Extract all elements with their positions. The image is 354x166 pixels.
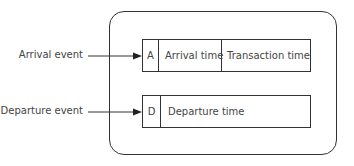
- departure-event-label: Departure event: [1, 105, 83, 116]
- arrival-event-label: Arrival event: [19, 49, 83, 60]
- arrival-arrow-icon: [88, 51, 142, 61]
- transaction-time-cell: Transaction time: [222, 40, 310, 71]
- arrival-time-cell: Arrival time: [159, 40, 222, 71]
- departure-code-cell: D: [143, 96, 161, 127]
- departure-arrow-icon: [88, 107, 142, 117]
- event-list-container: [109, 11, 337, 155]
- arrival-code-cell: A: [143, 40, 159, 71]
- departure-time-cell: Departure time: [161, 96, 310, 127]
- departure-record: D Departure time: [142, 95, 311, 128]
- arrival-record: A Arrival time Transaction time: [142, 39, 311, 72]
